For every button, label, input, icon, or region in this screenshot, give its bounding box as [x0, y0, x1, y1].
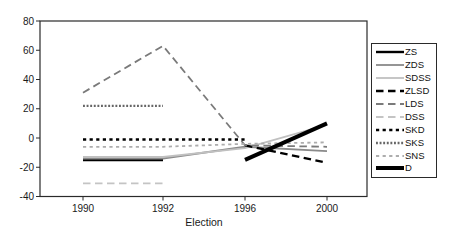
- y-tick-label: 0: [28, 133, 34, 144]
- legend-item-LDS: LDS: [375, 98, 435, 110]
- legend-label: LDS: [405, 99, 423, 109]
- legend-label: ZLSD: [405, 86, 429, 96]
- legend-line-sample: [375, 151, 405, 161]
- legend-label: ZDS: [405, 60, 424, 70]
- legend-label: ZS: [405, 47, 417, 57]
- series-line-LDS: [83, 46, 327, 147]
- y-tick-label: -40: [20, 191, 35, 202]
- legend-item-D: D: [375, 162, 435, 174]
- legend-label: SKS: [405, 138, 424, 148]
- legend-line-sample: [375, 86, 405, 96]
- y-tick-label: 60: [23, 45, 35, 56]
- legend-line-sample: [375, 138, 405, 148]
- x-tick-label: 1990: [72, 203, 95, 214]
- legend-line-sample: [375, 47, 405, 57]
- y-tick-label: -20: [20, 162, 35, 173]
- x-axis-label: Election: [185, 216, 223, 228]
- legend-item-SKD: SKD: [375, 124, 435, 136]
- legend-line-sample: [375, 112, 405, 122]
- axes: [40, 21, 367, 197]
- legend-line-sample: [375, 60, 405, 70]
- legend-item-SKS: SKS: [375, 137, 435, 149]
- plot-frame: [40, 21, 367, 197]
- legend-item-SNS: SNS: [375, 150, 435, 162]
- legend-item-ZS: ZS: [375, 46, 435, 58]
- legend-item-DSS: DSS: [375, 111, 435, 123]
- y-tick-label: 40: [23, 74, 35, 85]
- legend: ZSZDSSDSSZLSDLDSDSSSKDSKSSNSD: [371, 43, 437, 178]
- legend-item-ZLSD: ZLSD: [375, 85, 435, 97]
- legend-line-sample: [375, 73, 405, 83]
- legend-line-sample: [375, 99, 405, 109]
- legend-line-sample: [375, 125, 405, 135]
- data-series: [83, 46, 327, 183]
- legend-label: D: [405, 163, 412, 173]
- x-tick-label: 2000: [316, 203, 339, 214]
- axis-ticks: 806040200-20-401990199219962000: [20, 16, 339, 214]
- legend-label: DSS: [405, 112, 425, 122]
- y-tick-label: 20: [23, 103, 35, 114]
- x-tick-label: 1992: [152, 203, 175, 214]
- legend-label: SDSS: [405, 73, 431, 83]
- legend-label: SKD: [405, 125, 425, 135]
- legend-item-ZDS: ZDS: [375, 59, 435, 71]
- line-chart: 806040200-20-401990199219962000 Election…: [0, 0, 452, 241]
- y-tick-label: 80: [23, 16, 35, 27]
- legend-line-sample: [375, 163, 405, 173]
- legend-item-SDSS: SDSS: [375, 72, 435, 84]
- legend-label: SNS: [405, 151, 425, 161]
- x-tick-label: 1996: [234, 203, 257, 214]
